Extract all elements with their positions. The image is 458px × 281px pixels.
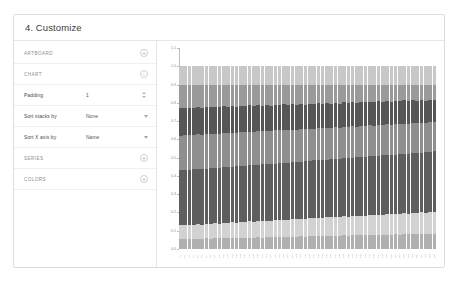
panel-row-sort-x-axis-by[interactable]: Sort X axis byName [14, 127, 156, 148]
chart-bar-segment [420, 85, 424, 100]
chart-bar[interactable] [179, 48, 183, 249]
chart-bar-segment [179, 66, 183, 84]
chart-bar[interactable] [192, 48, 196, 249]
chart-bar[interactable] [278, 48, 282, 249]
chart-bar[interactable] [295, 48, 299, 249]
chart-bar[interactable] [420, 48, 424, 249]
chart-bar[interactable] [385, 48, 389, 249]
chart-bar[interactable] [209, 48, 213, 249]
chart-bar[interactable] [188, 48, 192, 249]
chart-bar[interactable] [308, 48, 312, 249]
chart-bar[interactable] [377, 48, 381, 249]
chart-bar[interactable] [235, 48, 239, 249]
chart-bar[interactable] [428, 48, 432, 249]
chart-bar-segment [329, 85, 333, 104]
chart-bar[interactable] [213, 48, 217, 249]
panel-row-value[interactable]: 1 [86, 92, 132, 98]
chart-bar[interactable] [359, 48, 363, 249]
chart-bar[interactable] [317, 48, 321, 249]
panel-row-sort-stacks-by[interactable]: Sort stacks byNone [14, 106, 156, 127]
chart-bar[interactable] [390, 48, 394, 249]
chart-bar[interactable] [239, 48, 243, 249]
chart-bar[interactable] [222, 48, 226, 249]
chart-bar[interactable] [368, 48, 372, 249]
chart-bar-segment [209, 168, 213, 224]
chevron-down-icon[interactable] [144, 115, 148, 118]
chart-bar[interactable] [415, 48, 419, 249]
panel-row-padding[interactable]: Padding1 [14, 85, 156, 106]
chart-bar[interactable] [248, 48, 252, 249]
chart-bar[interactable] [183, 48, 187, 249]
chart-bar[interactable] [304, 48, 308, 249]
chart-bar[interactable] [261, 48, 265, 249]
panel-row-series[interactable]: SERIES+ [14, 148, 156, 169]
chart-bar[interactable] [372, 48, 376, 249]
panel-row-value[interactable]: None [86, 113, 132, 119]
expand-plus-icon[interactable]: + [140, 175, 148, 183]
chart-bar[interactable] [196, 48, 200, 249]
chart-bar[interactable] [231, 48, 235, 249]
chart-bar[interactable] [218, 48, 222, 249]
chevron-down-icon[interactable] [142, 96, 146, 98]
chart-bar[interactable] [411, 48, 415, 249]
y-axis-tick: 0.0 [171, 247, 176, 251]
chart-bar[interactable] [321, 48, 325, 249]
chart-bar-segment [398, 85, 402, 102]
chart-bar-segment [321, 160, 325, 218]
chart-bar-segment [200, 135, 204, 169]
chart-bar[interactable] [407, 48, 411, 249]
chart-bar[interactable] [329, 48, 333, 249]
chart-bar[interactable] [347, 48, 351, 249]
chart-bar-segment [329, 66, 333, 84]
chart-bar[interactable] [205, 48, 209, 249]
chart-bar[interactable] [424, 48, 428, 249]
chart-plot-area[interactable] [179, 48, 436, 249]
expand-plus-icon[interactable]: + [140, 154, 148, 162]
chart-bar[interactable] [325, 48, 329, 249]
chart-bar[interactable] [243, 48, 247, 249]
chart-bar[interactable] [226, 48, 230, 249]
collapse-minus-icon[interactable]: − [140, 70, 148, 78]
quantity-stepper[interactable] [139, 90, 148, 101]
chart-bar-segment [312, 85, 316, 105]
panel-row-artboard[interactable]: ARTBOARD+ [14, 43, 156, 64]
chart-bar[interactable] [394, 48, 398, 249]
chart-bar[interactable] [355, 48, 359, 249]
chart-bar[interactable] [299, 48, 303, 249]
panel-row-value[interactable]: Name [86, 134, 132, 140]
chart-bar-segment [420, 212, 424, 234]
chart-bar[interactable] [402, 48, 406, 249]
chart-bar[interactable] [351, 48, 355, 249]
chart-bar-segment [213, 238, 217, 249]
chart-bar[interactable] [274, 48, 278, 249]
chart-bar[interactable] [433, 48, 436, 249]
chart-bar[interactable] [398, 48, 402, 249]
x-axis-tick-label: C51 [394, 250, 398, 263]
chart-bar-segment [308, 161, 312, 218]
chart-bar[interactable] [265, 48, 269, 249]
chart-bar[interactable] [342, 48, 346, 249]
chart-bar[interactable] [269, 48, 273, 249]
chart-bar[interactable] [286, 48, 290, 249]
chart-bar[interactable] [282, 48, 286, 249]
chevron-up-icon[interactable] [142, 92, 146, 94]
chevron-down-icon[interactable] [144, 136, 148, 139]
panel-row-colors[interactable]: COLORS+ [14, 169, 156, 190]
chart-bar-segment [312, 129, 316, 161]
chart-bar[interactable] [381, 48, 385, 249]
chart-bar[interactable] [256, 48, 260, 249]
chart-bar-segment [209, 239, 213, 249]
chart-bar[interactable] [334, 48, 338, 249]
chart-bar-segment [226, 107, 230, 133]
chart-bar[interactable] [252, 48, 256, 249]
chart-bar[interactable] [200, 48, 204, 249]
panel-row-chart[interactable]: CHART− [14, 64, 156, 85]
chart-bar[interactable] [364, 48, 368, 249]
chart-bar-segment [291, 219, 295, 236]
chart-bar-segment [291, 237, 295, 249]
chart-bar[interactable] [338, 48, 342, 249]
chart-bar[interactable] [291, 48, 295, 249]
expand-plus-icon[interactable]: + [140, 49, 148, 57]
chart-bar-segment [342, 127, 346, 159]
chart-bar[interactable] [312, 48, 316, 249]
